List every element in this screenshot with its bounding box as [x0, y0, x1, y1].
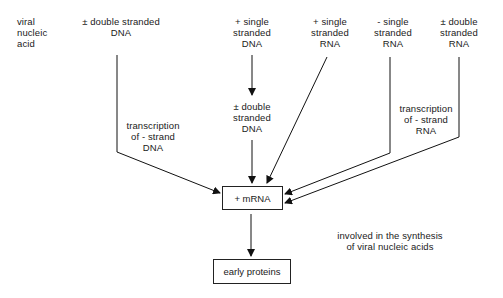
source-ss-plus-dna: + single stranded DNA [222, 16, 282, 49]
node-early-proteins: early proteins [213, 259, 291, 284]
intermediate-ds-dna: ± double stranded DNA [222, 101, 282, 134]
annotation-synthesis-note: involved in the synthesis of viral nucle… [322, 230, 458, 252]
node-mrna: + mRNA [222, 186, 283, 210]
source-ss-minus-rna: - single stranded RNA [363, 16, 423, 49]
edge-ss-minus-rna-to-mrna [285, 57, 390, 194]
row-label-viral-nucleic-acid: viral nucleic acid [17, 16, 47, 49]
annotation-transcription-dna: transcription of - strand DNA [118, 120, 188, 153]
source-ss-plus-rna: + single stranded RNA [300, 16, 360, 49]
node-early-proteins-label: early proteins [223, 266, 280, 277]
node-mrna-label: + mRNA [234, 193, 270, 204]
annotation-transcription-rna: transcription of - strand RNA [393, 103, 459, 136]
source-ds-rna: ± double stranded RNA [428, 16, 490, 49]
source-ds-dna: ± double stranded DNA [72, 16, 170, 38]
